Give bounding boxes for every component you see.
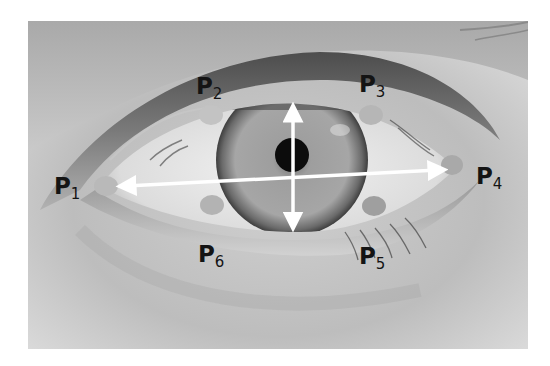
- landmark-dot-p4: [441, 155, 463, 175]
- landmark-dot-p6: [200, 195, 224, 215]
- landmark-dot-p5: [362, 196, 386, 216]
- eye-landmark-figure: P1 P2 P3 P4 P5 P6: [0, 0, 550, 366]
- landmark-dot-p1: [94, 176, 118, 196]
- iris-highlight: [330, 124, 350, 136]
- landmark-dot-p3: [359, 105, 383, 125]
- landmark-dot-p2: [199, 105, 223, 125]
